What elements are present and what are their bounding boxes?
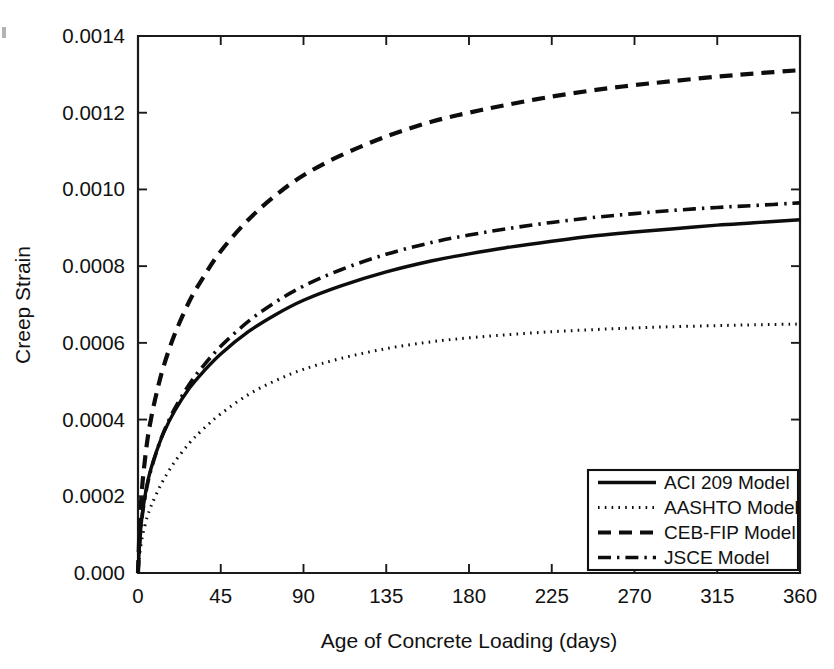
x-tick-label: 360 — [783, 584, 817, 607]
x-tick-label: 225 — [535, 584, 569, 607]
y-axis-tick-labels: 0.0000.00020.00040.00060.00080.00100.001… — [62, 24, 125, 584]
x-tick-label: 90 — [292, 584, 315, 607]
x-axis-tick-labels: 04590135180225270315360 — [132, 584, 817, 607]
y-tick-label: 0.0012 — [62, 101, 125, 124]
chart-page: 04590135180225270315360 0.0000.00020.000… — [0, 0, 834, 669]
y-tick-label: 0.000 — [74, 561, 125, 584]
y-tick-label: 0.0014 — [62, 24, 125, 47]
creep-strain-chart: 04590135180225270315360 0.0000.00020.000… — [0, 0, 834, 669]
x-tick-label: 180 — [452, 584, 486, 607]
x-tick-label: 0 — [132, 584, 143, 607]
y-tick-label: 0.0010 — [62, 177, 125, 200]
legend-label: JSCE Model — [664, 547, 770, 568]
y-tick-label: 0.0006 — [62, 331, 125, 354]
y-axis-title: Creep Strain — [11, 246, 34, 364]
y-tick-label: 0.0002 — [62, 484, 125, 507]
x-tick-label: 315 — [700, 584, 734, 607]
y-tick-label: 0.0004 — [62, 408, 125, 431]
x-tick-label: 45 — [209, 584, 232, 607]
x-tick-label: 270 — [617, 584, 651, 607]
x-axis-title: Age of Concrete Loading (days) — [321, 629, 618, 652]
legend-label: CEB-FIP Model — [664, 522, 796, 543]
x-tick-label: 135 — [369, 584, 403, 607]
y-tick-label: 0.0008 — [62, 254, 125, 277]
legend-label: ACI 209 Model — [664, 472, 790, 493]
chart-legend: ACI 209 ModelAASHTO ModelCEB-FIP ModelJS… — [588, 470, 799, 570]
legend-label: AASHTO Model — [664, 497, 799, 518]
